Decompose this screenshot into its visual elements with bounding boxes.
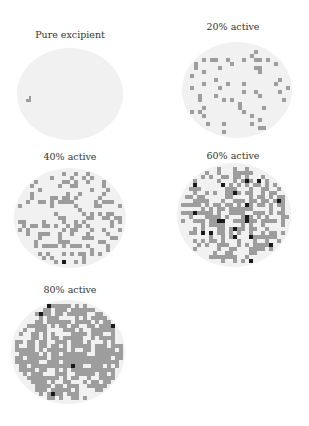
panel-label: 80% active: [44, 284, 97, 295]
panel-label: 60% active: [207, 150, 260, 161]
tablet-image-map: [17, 48, 123, 140]
tablet-image-map: [11, 300, 125, 404]
panel-label: 40% active: [44, 151, 97, 162]
tablet-image-map: [177, 163, 291, 267]
panel-label: 20% active: [207, 21, 260, 32]
panel-label: Pure excipient: [35, 29, 105, 40]
tablet-image-map: [14, 168, 126, 268]
tablet-image-map: [182, 42, 292, 138]
